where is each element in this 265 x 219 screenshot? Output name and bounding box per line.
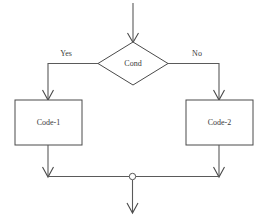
edge-yes-label: Yes <box>60 49 72 58</box>
edge-entry <box>128 3 139 43</box>
flowchart-canvas: Cond Yes No Code-1 Code-2 <box>0 0 265 219</box>
edge-no-line <box>168 64 219 100</box>
merge-junction-circle[interactable] <box>129 173 135 179</box>
flowchart-diagram: Cond Yes No Code-1 Code-2 <box>0 0 265 219</box>
edge-exit <box>127 180 138 213</box>
edge-true-to-merge <box>43 145 54 177</box>
edge-false-to-merge <box>214 145 225 177</box>
edge-no-label: No <box>192 49 202 58</box>
false-branch-label: Code-2 <box>208 118 232 127</box>
node-decision[interactable]: Cond <box>98 42 168 85</box>
edge-yes-line <box>48 64 98 100</box>
true-branch-label: Code-1 <box>37 118 61 127</box>
edge-no: No <box>168 49 225 100</box>
edge-yes: Yes <box>43 49 99 100</box>
node-false-branch[interactable]: Code-2 <box>186 100 253 145</box>
node-true-branch[interactable]: Code-1 <box>15 100 82 145</box>
decision-label: Cond <box>124 59 141 68</box>
